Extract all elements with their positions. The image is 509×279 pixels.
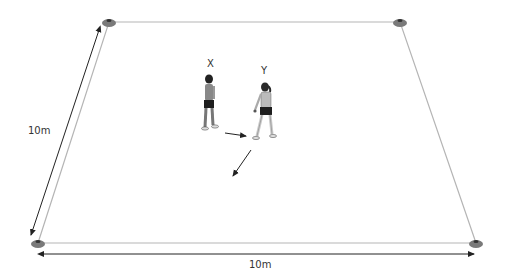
cone-icon	[31, 240, 45, 248]
depth-label: 10m	[28, 125, 50, 136]
cone-icon	[393, 19, 407, 27]
player-x-label: X	[207, 58, 214, 69]
width-dimension: 10m	[42, 254, 474, 270]
player-y-label: Y	[260, 65, 268, 76]
width-label: 10m	[249, 259, 271, 270]
drill-diagram: 10m 10m X Y	[0, 0, 509, 279]
person-icon	[253, 83, 277, 140]
pass-arrow	[225, 133, 246, 136]
player-y: Y	[253, 65, 277, 140]
person-icon	[202, 75, 219, 131]
player-x: X	[202, 58, 219, 130]
depth-dimension: 10m	[28, 30, 99, 235]
cone-icon	[469, 240, 483, 248]
cone-icon	[102, 19, 116, 27]
run-arrow	[233, 150, 251, 176]
